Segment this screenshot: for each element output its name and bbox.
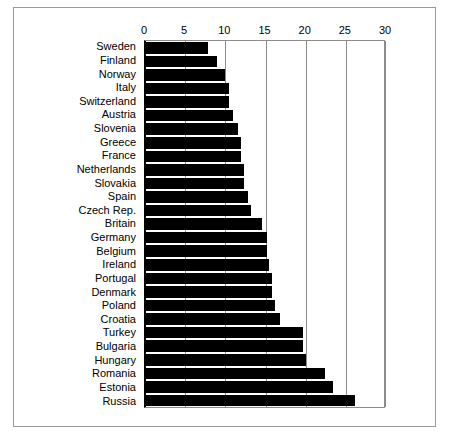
y-tick-label: Germany bbox=[18, 231, 140, 245]
bar-row bbox=[145, 217, 384, 231]
bar-row bbox=[145, 312, 384, 326]
bar-row bbox=[145, 163, 384, 177]
chart-page: 051015202530 SwedenFinlandNorwayItalySwi… bbox=[0, 0, 449, 437]
y-tick-label: Slovenia bbox=[18, 122, 140, 136]
y-tick-label: Austria bbox=[18, 108, 140, 122]
y-tick-label: Poland bbox=[18, 299, 140, 313]
bar-row bbox=[145, 272, 384, 286]
y-axis-category-labels: SwedenFinlandNorwayItalySwitzerlandAustr… bbox=[18, 40, 140, 408]
bar bbox=[145, 110, 233, 122]
y-tick-label: France bbox=[18, 149, 140, 163]
bar bbox=[145, 96, 229, 108]
bar bbox=[145, 42, 208, 54]
y-tick-label: Spain bbox=[18, 190, 140, 204]
x-tick-label: 5 bbox=[181, 22, 187, 38]
horizontal-bar-chart: 051015202530 SwedenFinlandNorwayItalySwi… bbox=[0, 0, 449, 437]
bar bbox=[145, 273, 272, 285]
bar-row bbox=[145, 55, 384, 69]
bar-row bbox=[145, 339, 384, 353]
y-tick-label: Portugal bbox=[18, 272, 140, 286]
bar-row bbox=[145, 299, 384, 313]
x-axis-tick-labels: 051015202530 bbox=[144, 22, 385, 38]
bar bbox=[145, 123, 238, 135]
y-tick-label: Britain bbox=[18, 217, 140, 231]
y-tick-label: Denmark bbox=[18, 285, 140, 299]
bar bbox=[145, 232, 267, 244]
gridline bbox=[385, 41, 386, 407]
y-tick-label: Romania bbox=[18, 367, 140, 381]
bar bbox=[145, 381, 333, 393]
bar bbox=[145, 395, 355, 407]
y-tick-label: Greece bbox=[18, 135, 140, 149]
bar-row bbox=[145, 285, 384, 299]
x-tick-label: 10 bbox=[218, 22, 230, 38]
y-tick-label: Hungary bbox=[18, 353, 140, 367]
bar-row bbox=[145, 380, 384, 394]
x-tick-label: 25 bbox=[339, 22, 351, 38]
y-tick-label: Bulgaria bbox=[18, 340, 140, 354]
x-tick-label: 30 bbox=[379, 22, 391, 38]
bar-row bbox=[145, 82, 384, 96]
bar-row bbox=[145, 122, 384, 136]
bar bbox=[145, 313, 280, 325]
bar-row bbox=[145, 204, 384, 218]
y-tick-label: Turkey bbox=[18, 326, 140, 340]
bar bbox=[145, 354, 306, 366]
bar bbox=[145, 69, 225, 81]
bar-row bbox=[145, 353, 384, 367]
y-tick-label: Czech Rep. bbox=[18, 204, 140, 218]
bar-row bbox=[145, 41, 384, 55]
x-tick-label: 15 bbox=[258, 22, 270, 38]
y-tick-label: Italy bbox=[18, 81, 140, 95]
y-tick-label: Norway bbox=[18, 67, 140, 81]
bar-row bbox=[145, 95, 384, 109]
y-tick-label: Ireland bbox=[18, 258, 140, 272]
bar-row bbox=[145, 68, 384, 82]
bar-row bbox=[145, 231, 384, 245]
y-tick-label: Finland bbox=[18, 54, 140, 68]
bar-row bbox=[145, 394, 384, 408]
y-tick-label: Croatia bbox=[18, 313, 140, 327]
bar-row bbox=[145, 190, 384, 204]
bar-row bbox=[145, 109, 384, 123]
bar-row bbox=[145, 136, 384, 150]
y-tick-label: Sweden bbox=[18, 40, 140, 54]
y-tick-label: Estonia bbox=[18, 381, 140, 395]
bar bbox=[145, 218, 262, 230]
bar bbox=[145, 178, 244, 190]
bar bbox=[145, 164, 244, 176]
bar bbox=[145, 340, 303, 352]
bar-row bbox=[145, 258, 384, 272]
bar bbox=[145, 300, 275, 312]
x-tick-label: 0 bbox=[141, 22, 147, 38]
y-tick-label: Russia bbox=[18, 394, 140, 408]
y-tick-label: Switzerland bbox=[18, 95, 140, 109]
bar bbox=[145, 259, 269, 271]
plot-area bbox=[144, 40, 385, 408]
bar-row bbox=[145, 177, 384, 191]
bar bbox=[145, 56, 217, 68]
y-tick-label: Belgium bbox=[18, 244, 140, 258]
bar bbox=[145, 245, 267, 257]
bar-row bbox=[145, 150, 384, 164]
bar bbox=[145, 205, 251, 217]
bar bbox=[145, 327, 303, 339]
bar-series bbox=[145, 41, 384, 407]
bar bbox=[145, 368, 325, 380]
y-tick-label: Netherlands bbox=[18, 163, 140, 177]
bar bbox=[145, 286, 272, 298]
bar-row bbox=[145, 367, 384, 381]
bar bbox=[145, 151, 241, 163]
bar-row bbox=[145, 326, 384, 340]
bar bbox=[145, 83, 229, 95]
y-tick-label: Slovakia bbox=[18, 176, 140, 190]
bar bbox=[145, 137, 241, 149]
bar bbox=[145, 191, 248, 203]
bar-row bbox=[145, 244, 384, 258]
x-tick-label: 20 bbox=[299, 22, 311, 38]
